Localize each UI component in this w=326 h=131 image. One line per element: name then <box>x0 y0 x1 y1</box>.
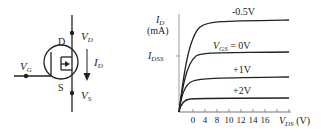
x-axis-label: VDS (V) <box>279 115 310 128</box>
source-node-dot <box>70 91 74 95</box>
drain-current-label: ID <box>93 56 103 70</box>
current-arrow-icon <box>84 73 91 81</box>
channel-arrow-icon <box>65 61 70 67</box>
curve-label-neg0p5v: -0.5V <box>232 6 256 17</box>
x-tick-label: 4 <box>203 115 208 125</box>
x-tick-label: 16 <box>261 115 271 125</box>
chart: 0 4 8 10 12 14 16 VDS (V) ID (mA) IDSS -… <box>147 6 310 128</box>
gate-node-dot <box>24 74 28 78</box>
x-tick-label: 0 <box>191 115 196 125</box>
curve-0v <box>179 52 289 112</box>
drain-voltage-label: VD <box>81 30 93 44</box>
x-tick-labels: 0 4 8 10 12 14 16 <box>191 115 270 125</box>
curve-label-plus1v: +1V <box>233 64 252 75</box>
idss-label: IDSS <box>147 50 164 63</box>
x-tick-label: 14 <box>249 115 259 125</box>
curve-label-0v: VGS = 0V <box>213 40 251 53</box>
curve-label-plus2v: +2V <box>233 85 252 96</box>
source-terminal-label: S <box>58 82 64 93</box>
drain-node-dot <box>70 31 74 35</box>
x-tick-label: 8 <box>215 115 220 125</box>
x-tick-label: 10 <box>225 115 235 125</box>
gate-voltage-label: VG <box>20 60 32 74</box>
y-axis-label-unit: (mA) <box>147 25 169 37</box>
drain-terminal-label: D <box>58 36 65 47</box>
curve-plus2v <box>179 98 289 112</box>
source-voltage-label: VS <box>81 89 92 103</box>
x-tick-label: 12 <box>237 115 246 125</box>
jfet-diagram: D S VD VS VG ID 0 4 8 10 12 14 <box>0 0 326 131</box>
